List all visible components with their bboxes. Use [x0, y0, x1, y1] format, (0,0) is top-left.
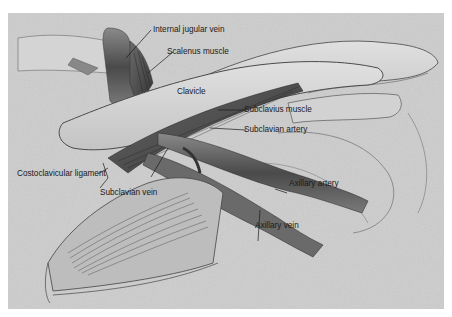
label-axillary-artery: Axillary artery — [289, 180, 339, 188]
label-internal-jugular-vein: Internal jugular vein — [153, 26, 224, 34]
label-costoclavicular-ligament: Costoclavicular ligament — [17, 170, 106, 178]
label-scalenus-muscle: Scalenus muscle — [167, 48, 229, 56]
label-subclavius-muscle: Subclavius muscle — [244, 106, 312, 114]
label-axillary-vein: Axillary vein — [255, 222, 299, 230]
illustration-plate: Internal jugular vein Scalenus muscle Cl… — [8, 13, 444, 309]
label-clavicle: Clavicle — [177, 88, 206, 96]
anatomy-figure: Internal jugular vein Scalenus muscle Cl… — [0, 0, 452, 317]
label-subclavian-artery: Subclavian artery — [244, 126, 307, 134]
illustration-drawing — [8, 13, 444, 309]
label-subclavian-vein: Subclavian vein — [100, 189, 157, 197]
